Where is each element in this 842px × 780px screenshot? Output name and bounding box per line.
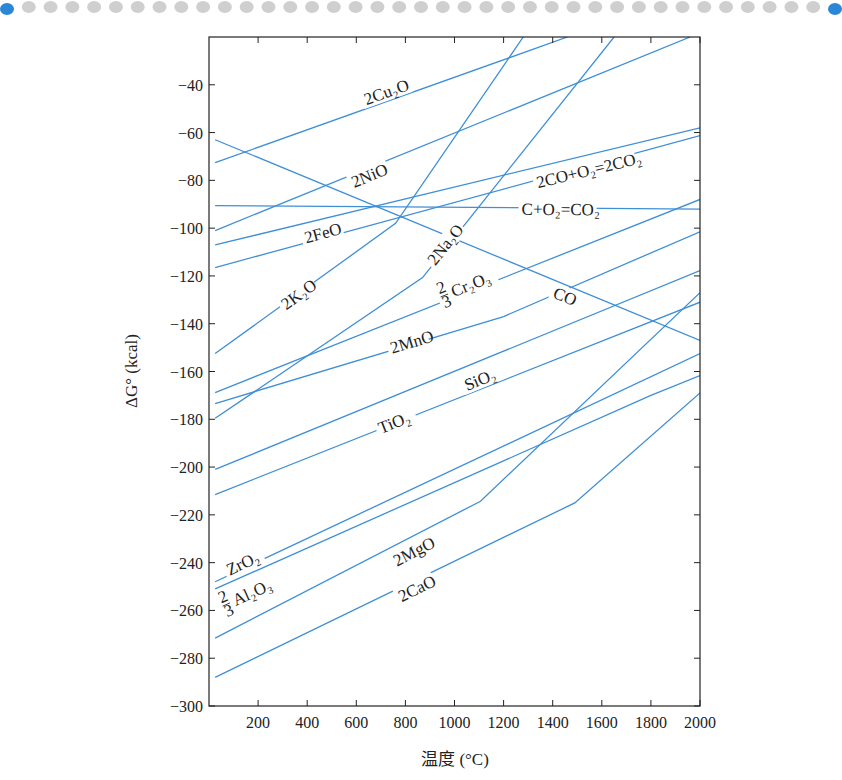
series-label-zro2: ZrO₂ [221, 546, 267, 581]
x-tick-label: 1200 [488, 714, 520, 731]
series-line-2na2o [215, 37, 614, 418]
series-label-text: 2MgO [390, 533, 438, 570]
series-lines [215, 37, 700, 677]
x-axis-title: 温度 (°C) [421, 750, 489, 769]
y-tick-label: −100 [170, 220, 203, 237]
x-tick-label: 2000 [684, 714, 716, 731]
series-label-text: 2CaO [395, 571, 439, 605]
series-label-text: 2K₂O [278, 275, 321, 313]
series-label-text: SiO₂ [461, 365, 498, 395]
series-label-2k2o: 2K₂O [275, 275, 320, 315]
y-tick-label: −40 [178, 77, 203, 94]
y-tick-label: −280 [170, 650, 203, 667]
series-label-text: 2Cu₂O [362, 75, 412, 109]
series-line-2-3al2o3 [215, 376, 700, 589]
x-tick-label: 1600 [586, 714, 618, 731]
x-tick-label: 1000 [439, 714, 471, 731]
y-tick-label: −300 [170, 698, 203, 715]
series-label-2nio: 2NiO [346, 159, 392, 192]
series-label-text: Al₂O₃ [230, 575, 275, 609]
y-tick-label: −260 [170, 602, 203, 619]
ellingham-diagram: 200400600800100012001400160018002000−40−… [0, 0, 842, 780]
series-label-text: Cr₂O₃ [448, 268, 493, 301]
x-tick-label: 1800 [635, 714, 667, 731]
series-line-c-o2-co2 [215, 206, 700, 209]
x-tick-label: 800 [393, 714, 417, 731]
series-label-text: 2NiO [349, 160, 391, 192]
series-label-2mgo: 2MgO [388, 533, 439, 572]
x-tick-label: 600 [344, 714, 368, 731]
series-label-2cu2o: 2Cu₂O [359, 75, 413, 110]
y-tick-label: −60 [178, 125, 203, 142]
x-tick-label: 400 [295, 714, 319, 731]
x-tick-label: 1400 [537, 714, 569, 731]
y-tick-label: −120 [170, 268, 203, 285]
series-label-text: C+O₂=CO₂ [522, 200, 600, 220]
x-tick-label: 200 [246, 714, 270, 731]
y-axis-title: ΔG° (kcal) [122, 334, 141, 408]
series-line-2cao [215, 393, 700, 677]
series-label-text: 2FeO [302, 219, 343, 247]
series-label-text: 2Na₂O [424, 220, 468, 268]
series-line-2k2o [215, 37, 523, 354]
y-tick-label: −220 [170, 507, 203, 524]
series-label-text: TiO₂ [376, 408, 413, 438]
y-tick-label: −140 [170, 316, 203, 333]
y-tick-label: −160 [170, 364, 203, 381]
series-label-2na2o: 2Na₂O [422, 219, 469, 271]
series-label-text: 2MnO [388, 327, 436, 358]
y-tick-label: −200 [170, 459, 203, 476]
series-label-tio2: TiO₂ [373, 406, 419, 439]
y-tick-label: −240 [170, 555, 203, 572]
y-tick-label: −80 [178, 172, 203, 189]
series-label-2mno: 2MnO [385, 327, 436, 359]
series-line-2nio [215, 37, 690, 231]
series-label-text: ZrO₂ [223, 548, 262, 580]
series-label-2-3cr2o3: 23Cr₂O₃ [431, 258, 502, 313]
series-line-2mno [215, 232, 700, 404]
series-line-zro2 [215, 354, 700, 582]
y-tick-label: −180 [170, 411, 203, 428]
series-label-c-o2-co2: C+O₂=CO₂ [519, 200, 600, 220]
series-label-2cao: 2CaO [392, 571, 439, 607]
